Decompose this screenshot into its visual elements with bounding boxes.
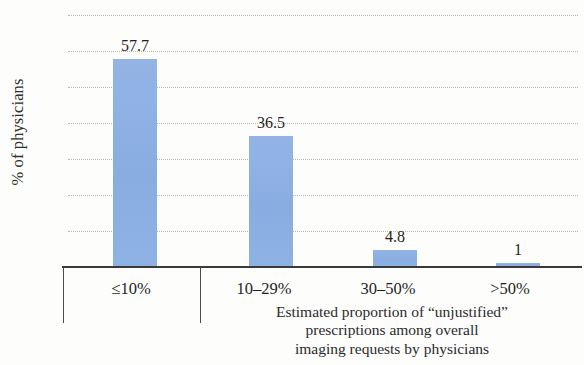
bar-10-29	[249, 136, 293, 267]
gridline-70	[68, 15, 578, 16]
plot-area: 57.7 36.5 4.8 1	[68, 15, 578, 267]
bar-value-label-10-29: 36.5	[249, 114, 293, 132]
bar-le-10	[113, 59, 157, 267]
bar-chart-figure: % of physicians 70 60 50 40 30 20 10 0 5…	[0, 0, 584, 365]
x-tick-label-gt-50: >50%	[471, 279, 549, 299]
x-axis-baseline	[62, 266, 582, 268]
bar-30-50	[373, 250, 417, 267]
x-tick-label-le-10: ≤10%	[91, 279, 171, 299]
x-axis-title: Estimated proportion of “unjustified” pr…	[205, 303, 579, 358]
x-axis-title-line-2: prescriptions among overall	[205, 321, 579, 339]
bar-value-label-le-10: 57.7	[113, 37, 157, 55]
x-axis-left-border	[63, 267, 64, 323]
x-tick-label-30-50: 30–50%	[343, 279, 433, 299]
x-axis-title-line-1: Estimated proportion of “unjustified”	[205, 303, 579, 321]
bar-value-label-30-50: 4.8	[373, 228, 417, 246]
bar-value-label-gt-50: 1	[496, 241, 540, 259]
x-axis-title-line-3: imaging requests by physicians	[205, 340, 579, 358]
x-axis-group-separator	[200, 267, 201, 323]
x-tick-label-10-29: 10–29%	[219, 279, 309, 299]
y-axis-title: % of physicians	[8, 32, 28, 232]
